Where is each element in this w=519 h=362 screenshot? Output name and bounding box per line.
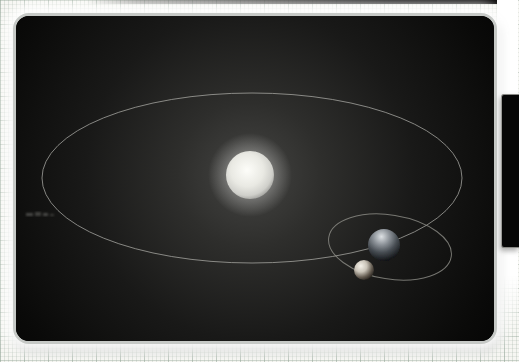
sun[interactable]	[226, 151, 274, 199]
moon[interactable]	[354, 260, 374, 280]
side-window-fragment	[501, 94, 519, 248]
top-edge-shadow	[86, 0, 507, 4]
orbit-scene	[16, 16, 494, 341]
simulation-panel	[13, 13, 497, 344]
planet[interactable]	[368, 229, 400, 261]
